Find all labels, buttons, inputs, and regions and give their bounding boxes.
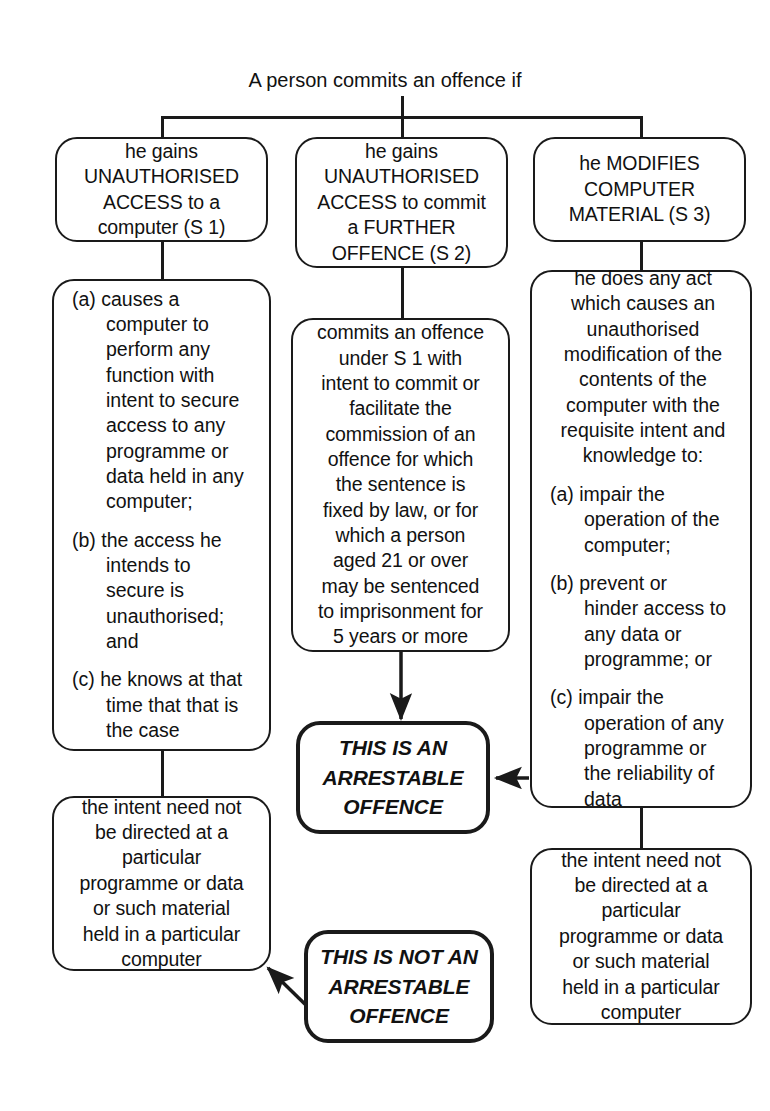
node-section-3-lead: he does any act which causes an unauthor… (550, 266, 736, 469)
clause-3a: (a) impair the operation of the computer… (550, 482, 736, 558)
node-section-1-heading: he gains UNAUTHORISED ACCESS to a comput… (55, 137, 268, 242)
clause-3c: (c) impair the operation of any programm… (550, 685, 736, 812)
connector-bus-to-s1 (161, 116, 164, 138)
diagram-title: A person commits an offence if (0, 68, 770, 92)
node-intent-right: the intent need not be directed at a par… (530, 848, 752, 1025)
clause-1c: (c) he knows at that time that that is t… (72, 667, 253, 743)
node-not-arrestable-offence: THIS IS NOT AN ARRESTABLE OFFENCE (304, 930, 494, 1043)
connector-title-stem (401, 96, 404, 118)
clause-1a: (a) causes a computer to perform any fun… (72, 287, 253, 515)
clause-3b: (b) prevent or hinder access to any data… (550, 571, 736, 672)
node-section-2-heading-text: he gains UNAUTHORISED ACCESS to commit a… (297, 139, 506, 266)
node-intent-left-text: the intent need not be directed at a par… (64, 795, 259, 972)
node-section-3-heading-text: he MODIFIES COMPUTER MATERIAL (S 3) (535, 151, 744, 227)
node-section-2-body-text: commits an offence under S 1 with intent… (305, 320, 496, 649)
node-section-3-heading: he MODIFIES COMPUTER MATERIAL (S 3) (533, 137, 746, 242)
node-arrestable-offence-text: THIS IS AN ARRESTABLE OFFENCE (310, 733, 476, 822)
node-arrestable-offence: THIS IS AN ARRESTABLE OFFENCE (296, 721, 490, 834)
node-intent-right-text: the intent need not be directed at a par… (542, 848, 740, 1025)
node-section-3-conditions: he does any act which causes an unauthor… (530, 270, 752, 808)
connector-s1-body-to-intent (161, 751, 164, 796)
connector-s2-head-to-body (401, 268, 404, 318)
connector-s1-head-to-body (161, 242, 164, 279)
node-section-2-body: commits an offence under S 1 with intent… (291, 318, 510, 652)
clause-1b: (b) the access he intends to secure is u… (72, 528, 253, 655)
node-intent-left: the intent need not be directed at a par… (52, 796, 271, 971)
connector-s3-body-to-intent (640, 808, 643, 848)
node-section-1-conditions: (a) causes a computer to perform any fun… (52, 279, 271, 751)
connector-bus-to-s3 (640, 116, 643, 138)
node-not-arrestable-offence-text: THIS IS NOT AN ARRESTABLE OFFENCE (318, 942, 480, 1031)
node-section-2-heading: he gains UNAUTHORISED ACCESS to commit a… (295, 137, 508, 268)
connector-bus-to-s2 (401, 116, 404, 138)
node-section-1-heading-text: he gains UNAUTHORISED ACCESS to a comput… (57, 139, 266, 240)
flowchart-canvas: A person commits an offence if he gains … (0, 0, 770, 1111)
